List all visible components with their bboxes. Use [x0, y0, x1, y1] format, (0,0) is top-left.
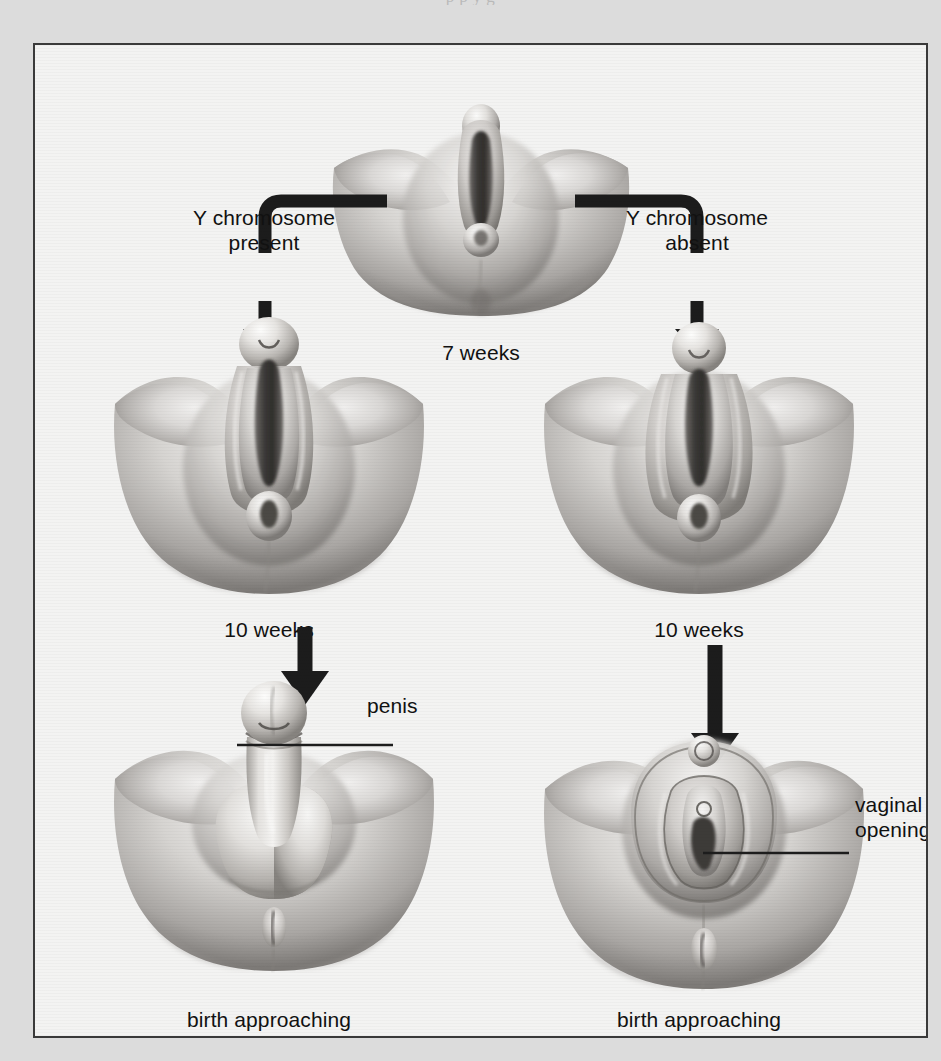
- stage-caption-7-weeks: 7 weeks: [442, 340, 520, 365]
- callout-label-vaginal-opening: vaginal opening: [855, 792, 928, 842]
- figure-panel: 7 weeks Y chromosome present Y chromosom…: [33, 43, 928, 1038]
- female-branch-label: Y chromosome absent: [626, 205, 768, 255]
- male-genitalia-10-weeks-illustration: [109, 308, 429, 598]
- stage-caption-male-birth: birth approaching: [187, 1007, 351, 1032]
- male-branch-label: Y chromosome present: [193, 205, 335, 255]
- female-genitalia-10-weeks-illustration: [539, 308, 859, 598]
- callout-label-penis: penis: [367, 693, 418, 718]
- stage-caption-female-birth: birth approaching: [617, 1007, 781, 1032]
- page-top-bleed-text: p p y g: [0, 0, 941, 5]
